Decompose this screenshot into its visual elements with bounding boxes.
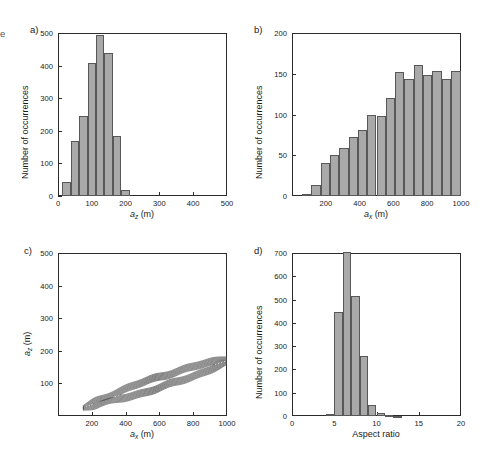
panel-a: a) Number of occurrences az (m) 0 100 20… (0, 0, 242, 232)
panel-b-x-axis-label: ax (m) (364, 209, 388, 220)
panel-c: c) az (m) ax (m) 100 200 300 400 500 200… (0, 231, 242, 463)
panel-c-ytick-200: 200 (31, 346, 53, 355)
panel-d-ytickmark (292, 276, 296, 277)
panel-a-xtickmark (193, 192, 194, 196)
panel-d-xtick-5: 5 (332, 419, 336, 428)
contour-line (120, 364, 215, 395)
histogram-bar (377, 413, 385, 416)
contour-line (93, 362, 221, 404)
panel-a-ytickmark (58, 131, 62, 132)
panel-c-ytick-100: 100 (31, 379, 53, 388)
histogram-bar (88, 63, 96, 196)
panel-c-xtick-1000: 1000 (219, 419, 236, 428)
panel-b-ytick-100: 100 (265, 110, 287, 119)
panel-d-ytick-700: 700 (265, 249, 287, 258)
panel-a-xtick-400: 400 (187, 199, 200, 208)
panel-c-xtick-800: 800 (187, 419, 200, 428)
panel-b-xtick-200: 200 (319, 199, 332, 208)
histogram-bar (423, 75, 432, 196)
panel-d-ytick-200: 200 (265, 365, 287, 374)
histogram-bar (360, 356, 368, 416)
panel-b-xtick-400: 400 (353, 199, 366, 208)
histogram-bar (414, 65, 423, 196)
panel-b-ytickmark (292, 115, 296, 116)
panel-b-ytick-150: 150 (265, 69, 287, 78)
panel-a-xtick-0: 0 (56, 199, 60, 208)
panel-d-x-axis-label: Aspect ratio (352, 429, 400, 439)
panel-b-xtick-800: 800 (421, 199, 434, 208)
panel-c-ytick-300: 300 (31, 314, 53, 323)
panel-c-xtick-200: 200 (85, 419, 98, 428)
histogram-bar (367, 115, 376, 196)
histogram-bar (79, 116, 87, 196)
histogram-bar (321, 163, 330, 196)
panel-a-ytick-100: 100 (31, 159, 53, 168)
panel-b-y-axis-label: Number of occurrences (254, 85, 264, 179)
panel-a-ytickmark (58, 196, 62, 197)
panel-a-ytick-300: 300 (31, 94, 53, 103)
panel-b-ytick-0: 0 (272, 192, 287, 201)
histogram-bar (393, 416, 401, 418)
histogram-bar (330, 155, 339, 196)
panel-a-ytickmark (58, 98, 62, 99)
histogram-bar (386, 98, 395, 196)
panel-d-ytickmark (292, 369, 296, 370)
panel-d-ytickmark (292, 346, 296, 347)
panel-a-xtick-100: 100 (85, 199, 98, 208)
panel-d-ytick-300: 300 (265, 342, 287, 351)
panel-c-ytick-400: 400 (31, 281, 53, 290)
panel-b-ytick-200: 200 (265, 29, 287, 38)
histogram-bar (104, 53, 112, 196)
panel-b-xtick-600: 600 (387, 199, 400, 208)
histogram-bar (339, 148, 348, 196)
panel-d-xtick-10: 10 (372, 419, 380, 428)
panel-d-ytickmark (292, 393, 296, 394)
panel-d-ytickmark (292, 300, 296, 301)
panel-b-ytickmark (292, 155, 296, 156)
histogram-bar (326, 414, 334, 416)
histogram-bar (349, 137, 358, 196)
panel-a-ytickmark (58, 163, 62, 164)
histogram-bar (343, 252, 351, 416)
panel-a-xtick-300: 300 (153, 199, 166, 208)
histogram-bar (302, 194, 311, 196)
panel-d-xtick-20: 20 (457, 419, 465, 428)
panel-d-letter: d) (254, 245, 262, 256)
histogram-bar (62, 182, 70, 196)
panel-a-x-axis-label: az (m) (130, 209, 154, 220)
contour-line (116, 363, 217, 396)
histogram-bar (358, 130, 367, 196)
panel-b-xtick-1000: 1000 (453, 199, 470, 208)
histogram-bar (121, 190, 129, 196)
panel-a-ytick-200: 200 (31, 126, 53, 135)
panel-a-ytickmark (58, 66, 62, 67)
panel-b-letter: b) (254, 24, 262, 35)
panel-d-ytick-100: 100 (265, 388, 287, 397)
panel-a-xtick-200: 200 (119, 199, 132, 208)
panel-d-ytick-0: 0 (272, 412, 287, 421)
panel-c-xtick-600: 600 (153, 419, 166, 428)
panel-a-y-axis-label: Number of occurrences (20, 85, 30, 179)
histogram-bar (368, 405, 376, 416)
figure-four-panel: e a) Number of occurrences az (m) 0 100 … (0, 0, 483, 463)
histogram-bar (432, 71, 441, 196)
panel-d: d) Number of occurrences Aspect ratio 0 … (241, 231, 483, 463)
panel-d-ytick-500: 500 (265, 295, 287, 304)
panel-a-ytick-400: 400 (31, 61, 53, 70)
histogram-bar (451, 71, 461, 196)
panel-c-xtick-400: 400 (119, 419, 132, 428)
panel-c-contour-plot (58, 253, 227, 416)
histogram-bar (385, 415, 393, 417)
histogram-bar (377, 116, 386, 196)
histogram-bar (442, 79, 451, 196)
panel-b-ytick-50: 50 (268, 151, 287, 160)
panel-b: b) Number of occurrences ax (m) 0 50 100… (241, 0, 483, 232)
histogram-bar (311, 185, 320, 196)
panel-a-xtick-500: 500 (221, 199, 234, 208)
histogram-bar (113, 136, 121, 196)
panel-c-x-axis-label: ax (m) (130, 429, 154, 440)
panel-d-ytickmark (292, 323, 296, 324)
histogram-bar (96, 35, 104, 196)
panel-c-ytick-500: 500 (31, 249, 53, 258)
panel-a-ytick-0: 0 (38, 192, 53, 201)
